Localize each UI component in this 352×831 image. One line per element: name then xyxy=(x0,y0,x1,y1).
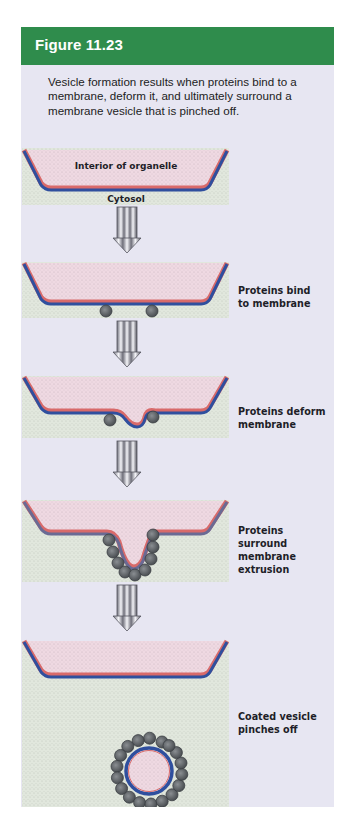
down-arrow-icon xyxy=(113,585,141,631)
down-arrow-icon xyxy=(113,441,141,487)
stage-5 xyxy=(22,641,229,807)
stage-4-label: Proteins surround membrane extrusion xyxy=(238,524,334,576)
cytosol-label: Cytosol xyxy=(107,194,145,204)
down-arrow-icon xyxy=(113,321,141,367)
stage-1: Interior of organelle Cytosol xyxy=(22,148,229,205)
stage-2-label: Proteins bind to membrane xyxy=(238,284,310,310)
stage-4 xyxy=(22,500,229,582)
stage-3-label: Proteins deform membrane xyxy=(238,405,325,431)
figure-panel: Figure 11.23 Vesicle formation results w… xyxy=(21,27,334,807)
stage-5-label: Coated vesicle pinches off xyxy=(238,710,317,736)
protein-icon xyxy=(104,414,116,426)
protein-icon xyxy=(147,411,159,423)
down-arrow-icon xyxy=(113,207,141,253)
interior-label: Interior of organelle xyxy=(75,161,178,171)
stage-2 xyxy=(22,262,229,318)
protein-icon xyxy=(146,305,158,317)
protein-icon xyxy=(100,305,112,317)
stage-3 xyxy=(22,376,229,438)
